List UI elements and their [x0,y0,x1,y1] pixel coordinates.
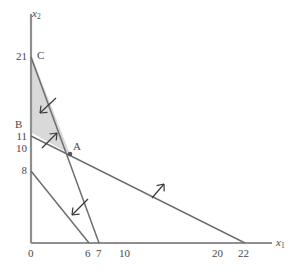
vertex-a-marker [68,152,73,157]
constraint-line-b-shallow [31,136,245,243]
x-tick-22: 22 [238,248,249,259]
constraint-line-c-steep [31,57,99,243]
direction-arrow-shallow-outer [152,184,164,198]
y-tick-8: 8 [9,165,27,176]
x-tick-7: 7 [96,248,102,259]
y-axis-label: x2 [32,8,41,19]
x-tick-0: 0 [28,248,34,259]
y-tick-10: 10 [9,143,27,154]
y-tick-11: 11 [9,131,27,142]
x-tick-20: 20 [212,248,223,259]
x-axis-label: x1 [276,237,285,248]
vertex-label-a: A [73,141,81,152]
plot-svg [0,0,295,270]
x-tick-6: 6 [85,248,91,259]
x-tick-10: 10 [119,248,130,259]
vertex-label-c: C [37,50,44,61]
figure-canvas: x2 x1 21 11 10 8 0 6 7 10 20 22 C B A [0,0,295,270]
vertex-label-b: B [15,119,22,130]
y-tick-21: 21 [9,51,27,62]
